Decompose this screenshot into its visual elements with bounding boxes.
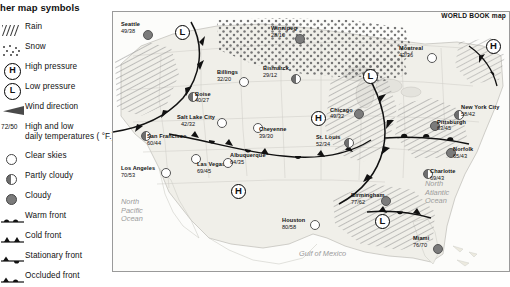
city-temperatures: 60/44 (147, 140, 161, 146)
city-temperatures: 42/32 (181, 121, 195, 127)
city-temperatures: 65/43 (453, 153, 467, 159)
legend-item-high-pressure: H High pressure (0, 62, 112, 79)
sky-condition-disc (217, 118, 227, 128)
ocean-label-north-pacific: North Pacific Ocean (121, 198, 143, 224)
city-temperatures: 43/36 (399, 52, 413, 58)
wind-direction-icon (0, 102, 26, 119)
cold-front-icon (0, 231, 26, 248)
occluded-front-icon (0, 271, 26, 287)
city-name: Charlotte (430, 168, 455, 174)
legend-item-occluded-front: Occluded front (0, 271, 112, 287)
city-temperatures: 63/45 (437, 125, 451, 131)
city-name: Bismarck (263, 65, 289, 71)
city-temperatures: 69/43 (430, 175, 444, 181)
city-name: Montreal (399, 45, 423, 51)
sky-condition-disc (239, 77, 249, 87)
legend-label: Partly cloudy (25, 171, 73, 181)
legend-label: High and low daily temperatures ( °F.) (25, 122, 115, 141)
sky-condition-disc (291, 74, 301, 84)
legend-label: Rain (25, 22, 42, 32)
high-pressure-marker: H (486, 39, 501, 54)
clear-skies-icon (0, 151, 26, 168)
ocean-label-gulf-of-mexico: Gulf of Mexico (299, 250, 346, 259)
high-pressure-icon: H (0, 62, 26, 79)
city-temperatures: 49/32 (330, 113, 344, 119)
legend-item-cold-front: Cold front (0, 231, 112, 248)
temperature-icon: 72/50 (0, 122, 26, 139)
ocean-label-north-atlantic: North Atlantic Ocean (425, 180, 449, 206)
legend-title: her map symbols (0, 2, 80, 13)
city-name: Miami (413, 235, 429, 241)
low-pressure-icon: L (0, 82, 26, 99)
city-temperatures: 64/35 (230, 159, 244, 165)
legend-item-snow: Snow (0, 42, 112, 59)
legend-item-warm-front: Warm front (0, 211, 112, 228)
city-temperatures: 69/45 (197, 168, 211, 174)
city-name: San Francisco (147, 133, 187, 139)
city-name: Las Vegas (197, 161, 225, 167)
city-temperatures: 40/27 (195, 97, 209, 103)
partly-cloudy-icon (0, 171, 26, 188)
city-temperatures: 52/34 (316, 141, 330, 147)
legend-label: Cloudy (25, 191, 51, 201)
city-name: St. Louis (316, 134, 341, 140)
city-temperatures: 80/58 (282, 224, 296, 230)
legend-label: Stationary front (25, 251, 82, 261)
city-temperatures: 58/42 (461, 111, 475, 117)
warm-front-icon (0, 211, 26, 228)
legend-item-low-pressure: L Low pressure (0, 82, 112, 99)
low-pressure-marker: L (375, 214, 390, 229)
city-name: Seattle (121, 21, 140, 27)
sky-condition-disc (143, 30, 153, 40)
legend-label: Wind direction (25, 102, 78, 112)
city-name: Cheyenne (259, 126, 287, 132)
rain-icon (0, 22, 26, 39)
legend-item-clear-skies: Clear skies (0, 151, 112, 168)
sky-condition-disc (161, 168, 171, 178)
sky-condition-disc (354, 109, 364, 119)
city-temperatures: 76/70 (413, 242, 427, 248)
city-name: Los Angeles (121, 165, 155, 171)
high-pressure-marker: H (311, 111, 326, 126)
weather-map: WORLD BOOK map (112, 11, 510, 272)
city-name: Birmingham (351, 192, 385, 198)
legend-item-partly-cloudy: Partly cloudy (0, 171, 112, 188)
city-temperatures: 28/10 (271, 32, 285, 38)
legend-label: Snow (25, 42, 46, 52)
map-base-layer (113, 12, 509, 271)
city-name: New York City (461, 104, 499, 110)
cloudy-icon (0, 191, 26, 208)
legend-label: Warm front (25, 211, 66, 221)
low-pressure-marker: L (175, 25, 190, 40)
sky-condition-disc (310, 220, 320, 230)
city-name: Winnipeg (271, 25, 297, 31)
sky-condition-disc (295, 34, 305, 44)
map-credit: WORLD BOOK map (441, 12, 506, 19)
legend-item-temperatures: 72/50 High and low daily temperatures ( … (0, 122, 112, 144)
sky-condition-disc (433, 244, 443, 254)
city-temperatures: 32/20 (217, 76, 231, 82)
city-temperatures: 77/62 (351, 199, 365, 205)
legend-item-cloudy: Cloudy (0, 191, 112, 208)
city-name: Billings (217, 69, 238, 75)
city-temperatures: 49/38 (121, 28, 135, 34)
legend-label: Cold front (25, 231, 62, 241)
city-temperatures: 70/53 (121, 172, 135, 178)
stationary-front-icon (0, 251, 26, 268)
snow-icon (0, 42, 26, 59)
city-name: Houston (282, 217, 305, 223)
low-pressure-marker: L (363, 69, 378, 84)
legend-item-rain: Rain (0, 22, 112, 39)
legend-label: High pressure (25, 62, 77, 72)
legend-panel: her map symbols Rain Snow H High pressur… (0, 0, 112, 275)
legend-label: Low pressure (25, 82, 75, 92)
city-temperatures: 39/30 (259, 133, 273, 139)
legend-item-stationary-front: Stationary front (0, 251, 112, 268)
city-name: Salt Lake City (177, 114, 215, 120)
legend-label: Occluded front (25, 271, 80, 281)
sky-condition-disc (427, 53, 437, 63)
legend-label: Clear skies (25, 151, 67, 161)
city-temperatures: 29/12 (263, 72, 277, 78)
city-name: Albuquerque (230, 152, 266, 158)
